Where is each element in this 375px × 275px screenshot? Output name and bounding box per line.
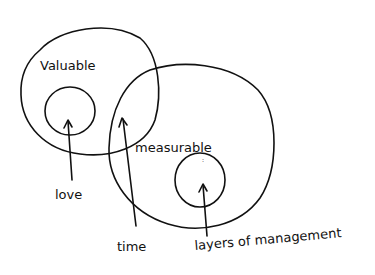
valuable-circle: [21, 28, 159, 155]
time-arrow: [119, 118, 136, 226]
love-circle: [45, 87, 95, 135]
stray-mark: :: [202, 156, 204, 163]
love-arrow: [64, 120, 72, 180]
time-label: time: [117, 239, 146, 254]
layers-circle: [175, 153, 225, 207]
love-label: love: [55, 187, 82, 202]
venn-diagram: Valuable measurable : love time layers o…: [0, 0, 375, 275]
layers-label: layers of management: [194, 225, 342, 253]
valuable-label: Valuable: [40, 58, 96, 73]
